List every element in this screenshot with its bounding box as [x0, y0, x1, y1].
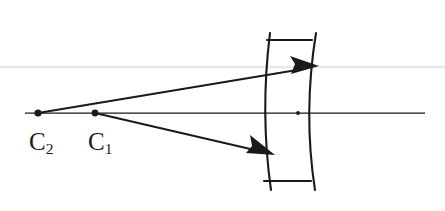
diagram-canvas — [0, 0, 445, 211]
point-c1-marker — [92, 110, 99, 117]
label-c2-subscript: 2 — [46, 140, 54, 157]
lower-ray-arrowhead — [246, 135, 275, 155]
optics-diagram-figure: C2 C1 — [0, 0, 445, 211]
lens-front-surface-arc — [265, 33, 271, 190]
label-c2: C2 — [29, 129, 53, 157]
label-c1-base: C — [88, 128, 105, 155]
upper-ray-arrowhead — [290, 56, 319, 74]
lower-ray-line — [95, 113, 259, 151]
lens-vertex-marker — [296, 111, 300, 115]
upper-ray-line — [38, 69, 303, 113]
point-c2-marker — [34, 109, 41, 116]
lens-back-surface-arc — [309, 33, 316, 190]
label-c1: C1 — [88, 129, 112, 157]
label-c1-subscript: 1 — [105, 140, 113, 157]
label-c2-base: C — [29, 128, 46, 155]
